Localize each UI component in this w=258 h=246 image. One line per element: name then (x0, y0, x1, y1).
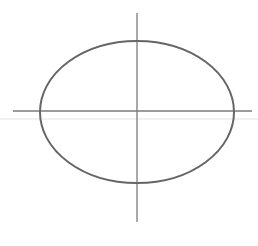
ellipse-sketch (0, 0, 258, 246)
sketch-canvas (0, 0, 258, 246)
